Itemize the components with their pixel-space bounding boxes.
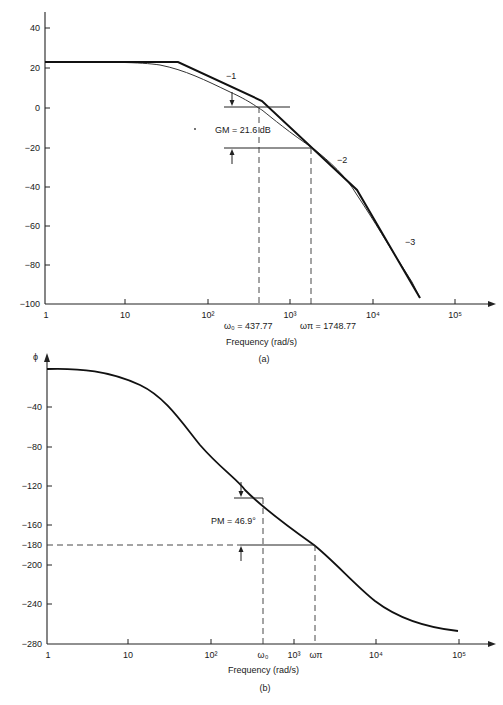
gm-arrowhead-up bbox=[230, 149, 235, 155]
y-tick-label: 40 bbox=[30, 23, 40, 33]
caption-b: (b) bbox=[260, 683, 271, 693]
x-tick-label: 10 bbox=[123, 650, 133, 660]
omega-0-label-b: ω₀ bbox=[258, 650, 269, 660]
x-tick-label: 10³ bbox=[287, 650, 300, 660]
gain-margin-label: GM = 21.6 dB bbox=[215, 125, 271, 135]
y-tick-label: −80 bbox=[25, 260, 40, 270]
omega-0-label-a: ω₀ = 437.77 bbox=[224, 321, 273, 331]
gm-arrowhead-down bbox=[230, 100, 235, 106]
slope-label-minus-1: −1 bbox=[226, 71, 236, 81]
x-axis-arrow-a bbox=[488, 301, 496, 307]
omega-pi-label-a: ωπ = 1748.77 bbox=[300, 321, 356, 331]
y-axis-arrow-b bbox=[44, 353, 50, 362]
y-tick-label: −20 bbox=[25, 143, 40, 153]
omega-pi-label-b: ωπ bbox=[309, 650, 322, 660]
slope-label-minus-2: −2 bbox=[337, 155, 347, 165]
x-tick-label: 1 bbox=[43, 310, 48, 320]
y-tick-label: −40 bbox=[27, 402, 42, 412]
x-axis-arrow-b bbox=[488, 641, 496, 647]
y-tick-label: 20 bbox=[30, 63, 40, 73]
x-axis-title-b: Frequency (rad/s) bbox=[228, 665, 299, 675]
y-axis-title-b: ϕ bbox=[33, 352, 38, 362]
y-tick-label: 0 bbox=[35, 103, 40, 113]
x-tick-label: 10 bbox=[120, 310, 130, 320]
bode-plot-figure: 40 20 0 −20 −40 −60 −80 −100 1 10 10² 10… bbox=[0, 0, 503, 705]
stray-dot bbox=[194, 128, 196, 130]
x-ticks-b: 1 10 10² 10³ 10⁴ 10⁵ bbox=[45, 639, 466, 660]
y-tick-label: −240 bbox=[22, 599, 42, 609]
y-tick-label: −80 bbox=[27, 442, 42, 452]
x-axis-title-a: Frequency (rad/s) bbox=[226, 337, 297, 347]
x-tick-label: 1 bbox=[45, 650, 50, 660]
y-tick-label: −60 bbox=[25, 221, 40, 231]
x-tick-label: 10³ bbox=[283, 310, 296, 320]
x-tick-label: 10² bbox=[201, 310, 214, 320]
x-tick-label: 10⁵ bbox=[452, 650, 466, 660]
slope-label-minus-3: −3 bbox=[405, 237, 415, 247]
x-ticks-a: 1 10 10² 10³ 10⁴ 10⁵ bbox=[43, 299, 462, 320]
pm-arrowhead-up bbox=[239, 546, 244, 552]
phase-margin-label: PM = 46.9° bbox=[211, 516, 256, 526]
y-tick-label: −120 bbox=[22, 481, 42, 491]
x-tick-label: 10² bbox=[204, 650, 217, 660]
caption-a: (a) bbox=[259, 354, 270, 364]
y-tick-label: −160 bbox=[22, 520, 42, 530]
y-tick-label: −280 bbox=[22, 639, 42, 649]
phase-curve bbox=[47, 369, 458, 631]
x-tick-label: 10⁴ bbox=[366, 310, 380, 320]
phase-plot: ϕ −40 −80 −120 −160 −180 −200 −240 −280 bbox=[22, 352, 496, 693]
y-tick-label: −200 bbox=[22, 560, 42, 570]
x-tick-label: 10⁵ bbox=[448, 310, 462, 320]
y-tick-label: −100 bbox=[20, 299, 40, 309]
y-tick-label: −180 bbox=[22, 540, 42, 550]
y-tick-label: −40 bbox=[25, 182, 40, 192]
pm-arrowhead-down bbox=[239, 491, 244, 497]
x-tick-label: 10⁴ bbox=[369, 650, 383, 660]
magnitude-plot: 40 20 0 −20 −40 −60 −80 −100 1 10 10² 10… bbox=[20, 12, 496, 364]
